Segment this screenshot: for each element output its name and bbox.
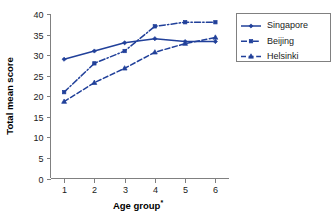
legend-label: Beijing: [267, 36, 294, 46]
x-tick-label: 4: [153, 185, 158, 195]
data-point-marker: [153, 25, 156, 28]
x-axis-title-asterisk: *: [160, 199, 163, 206]
x-tick-label: 6: [213, 185, 218, 195]
chart-figure: 0510152025303540 Total mean score 123456…: [0, 0, 334, 219]
y-tick-label: 10: [33, 133, 43, 143]
data-point-marker: [93, 62, 96, 65]
legend-label: Singapore: [267, 20, 308, 30]
x-tick-label: 3: [123, 185, 128, 195]
y-tick-label: 20: [33, 92, 43, 102]
y-tick-label: 35: [33, 31, 43, 41]
data-point-marker: [62, 90, 65, 93]
y-tick-label: 5: [38, 154, 43, 164]
data-point-marker: [214, 21, 217, 24]
y-tick-label: 40: [33, 10, 43, 20]
data-point-marker: [183, 21, 186, 24]
y-tick-label: 0: [38, 175, 43, 185]
x-tick-label: 5: [183, 185, 188, 195]
y-tick-label: 30: [33, 51, 43, 61]
x-axis-title: Age group*: [113, 199, 164, 211]
data-point-marker: [249, 40, 252, 43]
chart-legend: SingaporeBeijingHelsinki: [237, 14, 331, 62]
y-tick-label: 25: [33, 72, 43, 82]
y-tick-label: 15: [33, 113, 43, 123]
y-axis-title: Total mean score: [4, 57, 15, 134]
x-tick-label: 1: [62, 185, 67, 195]
x-tick-label: 2: [92, 185, 97, 195]
line-chart: 0510152025303540 Total mean score 123456…: [0, 0, 334, 219]
legend-label: Helsinki: [267, 51, 299, 61]
data-point-marker: [123, 49, 126, 52]
x-axis-title-text: Age group: [113, 200, 161, 211]
